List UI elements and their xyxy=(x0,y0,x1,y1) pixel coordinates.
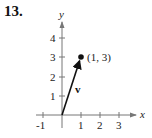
x-axis-label: x xyxy=(139,108,145,120)
vector-plot: -1 1 2 3 1 2 3 4 x y v (1, 3) xyxy=(0,0,152,138)
y-axis-label: y xyxy=(58,8,64,20)
vector-label: v xyxy=(75,83,81,95)
y-tick-label: 4 xyxy=(50,32,56,44)
point-label: (1, 3) xyxy=(87,51,111,64)
x-tick-label: 1 xyxy=(78,119,84,131)
point-1-3 xyxy=(78,54,84,60)
y-tick-label: 3 xyxy=(50,51,56,63)
y-tick-label: 2 xyxy=(50,71,56,83)
y-tick-label: 1 xyxy=(50,90,56,102)
x-tick-label: 2 xyxy=(97,119,103,131)
x-tick-label: 3 xyxy=(116,119,122,131)
x-tick-label: -1 xyxy=(36,119,45,131)
